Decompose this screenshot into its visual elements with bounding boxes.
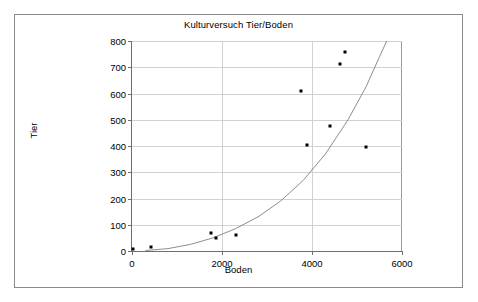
y-tick-label-700: 700 [110,62,126,73]
tick-x-2000 [222,251,223,255]
tick-x-4000 [312,251,313,255]
data-point [300,89,303,92]
data-point [131,247,134,250]
series-line-1 [146,41,387,251]
x-tick-label-6000: 6000 [391,258,412,269]
y-tick-label-500: 500 [110,114,126,125]
data-point [210,232,213,235]
data-point [338,63,341,66]
data-point [329,124,332,127]
y-tick-label-600: 600 [110,88,126,99]
data-point [344,51,347,54]
data-point [149,246,152,249]
x-tick-label-0: 0 [129,258,134,269]
data-point [235,234,238,237]
chart-frame: Kulturversuch Tier/Boden Tier Boden 0100… [14,14,463,288]
x-axis-line [132,251,402,252]
data-point [364,146,367,149]
tick-x-6000 [402,251,403,255]
plot-area: 0100200300400500600700800 0200040006000 [132,41,402,251]
trend-curve [132,41,402,251]
data-point [305,143,308,146]
chart-title: Kulturversuch Tier/Boden [15,19,462,30]
x-tick-label-4000: 4000 [301,258,322,269]
y-tick-label-800: 800 [110,36,126,47]
y-tick-label-100: 100 [110,219,126,230]
y-tick-label-200: 200 [110,193,126,204]
y-axis-title: Tier [28,101,39,161]
x-tick-label-2000: 2000 [211,258,232,269]
data-point [214,237,217,240]
y-tick-label-400: 400 [110,141,126,152]
y-tick-label-300: 300 [110,167,126,178]
y-tick-label-0: 0 [121,246,126,257]
tick-x-0 [132,251,133,255]
